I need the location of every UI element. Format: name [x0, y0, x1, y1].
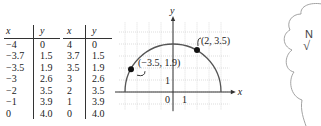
- pointer-arrow-icon: [137, 71, 145, 76]
- graph: (−3.5, 1.9)(2, 3.5) x y 0 1 1 N √: [0, 0, 321, 126]
- y-tick-label-1: 1: [165, 75, 170, 86]
- thought-cloud: N √: [284, 3, 321, 126]
- origin-tick-label: 0: [165, 94, 170, 105]
- point-label: (2, 3.5): [201, 35, 230, 47]
- cloud-text-line2: √: [303, 38, 311, 53]
- x-tick-label-1: 1: [182, 94, 187, 105]
- x-axis-label: x: [237, 86, 243, 97]
- data-point: [128, 66, 134, 72]
- point-label: (−3.5, 1.9): [138, 57, 180, 69]
- x-axis-arrow-icon: [231, 90, 236, 94]
- data-point: [194, 47, 200, 53]
- y-axis-label: y: [169, 5, 175, 16]
- cloud-outline: [284, 3, 321, 126]
- y-axis-arrow-icon: [171, 16, 175, 21]
